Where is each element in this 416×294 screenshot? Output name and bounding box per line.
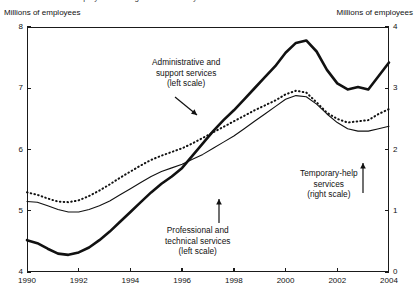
annotation-temp-line1: Temporary-help: [300, 168, 358, 179]
left-tick-label-4: 4: [19, 268, 23, 276]
right-tick-label-1: 1: [393, 207, 397, 215]
right-tick-label-3: 3: [393, 84, 397, 92]
figure-title: Business services employment has grown i…: [4, 0, 213, 2]
annotation-temp-line3: (right scale): [300, 189, 358, 200]
annotation-professional-technical: Professional and technical services (lef…: [165, 225, 230, 257]
chart-figure: Business services employment has grown i…: [0, 0, 416, 294]
x-tick-label-2002: 2002: [328, 276, 346, 285]
x-tick-label-1994: 1994: [122, 276, 140, 285]
left-tick-label-5: 5: [19, 207, 23, 215]
right-tick-label-2: 2: [393, 146, 397, 154]
left-tick-label-8: 8: [19, 23, 23, 31]
x-tick-label-1996: 1996: [173, 276, 191, 285]
left-axis-caption: Millions of employees: [4, 8, 80, 17]
x-tick-label-2004: 2004: [380, 276, 398, 285]
annotation-prof-line2: technical services: [165, 236, 230, 247]
annotation-temporary-help: Temporary-help services (right scale): [300, 168, 358, 200]
right-axis-caption: Millions of employees: [337, 8, 413, 17]
leader-admin-support: [175, 97, 197, 115]
x-tick-label-2000: 2000: [277, 276, 295, 285]
right-tick-label-0: 0: [393, 268, 397, 276]
annotation-admin-line1: Administrative and: [152, 57, 220, 68]
left-tick-label-7: 7: [19, 84, 23, 92]
leader-temporary-help: [360, 163, 366, 193]
annotation-prof-line3: (left scale): [165, 246, 230, 257]
annotation-admin-support: Administrative and support services (lef…: [152, 57, 220, 89]
annotation-admin-line3: (left scale): [152, 78, 220, 89]
leader-professional-technical: [216, 199, 222, 223]
left-tick-label-6: 6: [19, 146, 23, 154]
annotation-admin-line2: support services: [152, 68, 220, 79]
x-tick-label-1998: 1998: [225, 276, 243, 285]
x-tick-label-1992: 1992: [70, 276, 88, 285]
annotation-prof-line1: Professional and: [165, 225, 230, 236]
x-tick-label-1990: 1990: [18, 276, 36, 285]
annotation-temp-line2: services: [300, 179, 358, 190]
right-tick-label-4: 4: [393, 23, 397, 31]
